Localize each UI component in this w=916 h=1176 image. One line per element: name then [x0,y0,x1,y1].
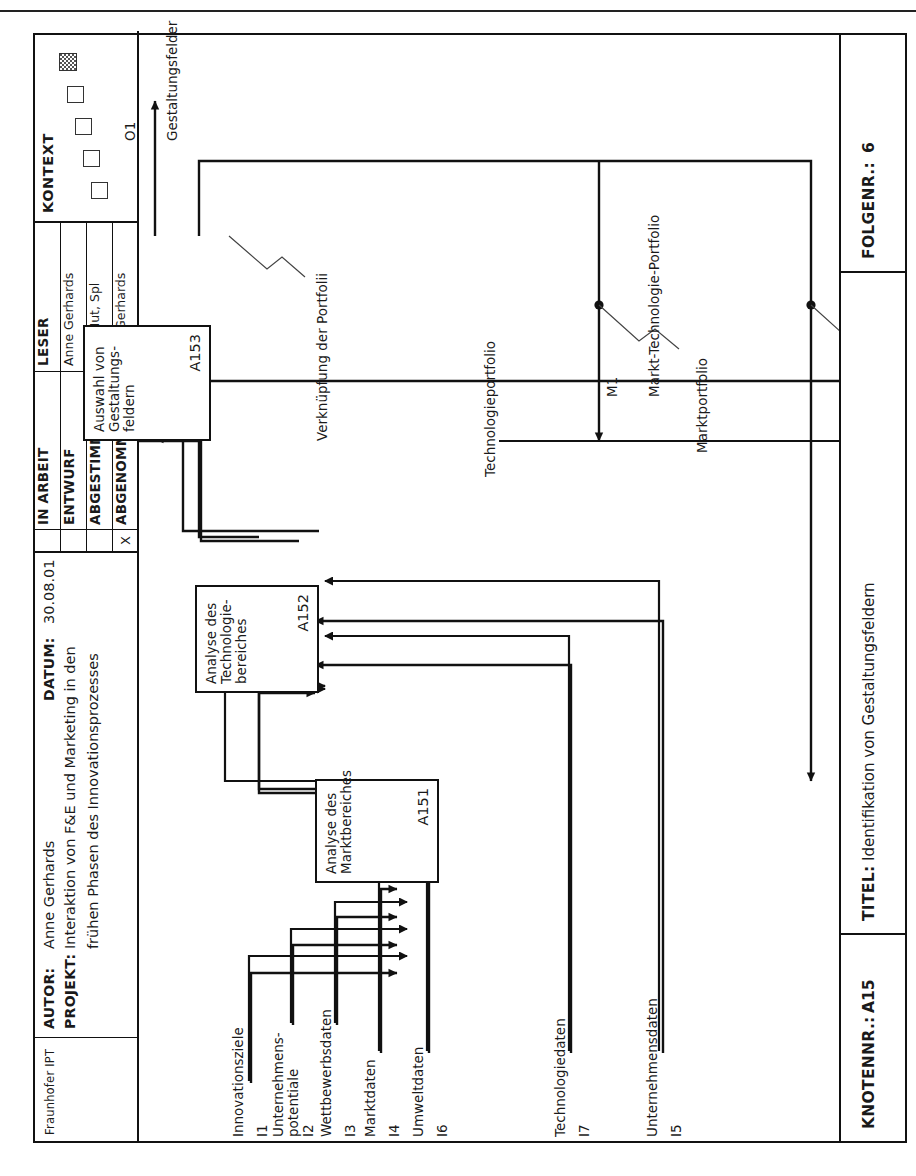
activity-box-a151[interactable]: Analyse des Marktbereiches A151 [315,779,439,883]
project-value-line2: frühen Phasen des Innovationsprozesses [85,653,101,949]
flow-label-marktportfolio: Marktportfolio [695,358,710,453]
wire-junction-dots [594,300,815,309]
project-value-line1: Interaktion von F&E und Marketing in den [62,646,78,949]
status-name-in-arbeit: IN ARBEIT [35,371,60,529]
footer-title-cell: TITEL: Identifikation von Gestaltungsfel… [839,271,905,933]
title-block: Fraunhofer IPT AUTOR: Anne Gerhards PROJ… [35,31,139,1141]
input-label-i5: Unternehmensdaten [645,998,660,1137]
footer-seq-label: FOLGENR.: [860,162,878,259]
author-value: Anne Gerhards [41,841,57,949]
input-code-i2: I2 [301,1124,316,1137]
form-footer: KNOTENNR.: A15 TITEL: Identifikation von… [839,35,905,1141]
status-check-abgestimmt[interactable] [87,529,112,551]
footer-node-label: KNOTENNR.: [860,1016,878,1129]
input-code-i1: I1 [255,1124,270,1137]
footer-title-label: TITEL: [860,866,878,921]
activity-code-a152: A152 [295,594,311,632]
activity-code-a153: A153 [187,334,203,372]
status-row-in-arbeit[interactable]: IN ARBEIT LESER [35,221,61,551]
input-code-i6: I6 [435,1124,450,1137]
input-code-i3: I3 [343,1124,358,1137]
output-label-o1: Gestaltungsfelder [165,21,180,141]
idef0-form: Fraunhofer IPT AUTOR: Anne Gerhards PROJ… [33,33,907,1143]
footer-seq-cell: FOLGENR.: 6 [839,35,905,271]
input-code-i7: I7 [577,1124,592,1137]
logo-cell: Fraunhofer IPT [35,1037,139,1141]
footer-title-value: Identifikation von Gestaltungsfeldern [860,582,878,861]
input-label-i7: Technologiedaten [553,1018,568,1137]
mechanism-label-m1: Markt-Technologie-Portfolio [647,215,662,397]
input-label-i2-line1: Unternehmens- [271,1032,286,1137]
input-label-i4: Marktdaten [363,1059,378,1137]
date-label: DATUM: [41,637,57,701]
input-label-i2-line2: potentiale [286,1069,301,1137]
input-label-i6: Umweltdaten [411,1047,426,1137]
context-square-2 [83,150,100,167]
status-check-in-arbeit[interactable] [35,529,60,551]
idef0-diagram-canvas: Analyse des Marktbereiches A151 Analyse … [139,35,841,1141]
status-check-entwurf[interactable] [61,529,86,551]
page-top-rule [0,10,916,12]
activity-title-a151: Analyse des Marktbereiches [324,770,354,874]
context-square-4 [67,86,84,103]
date-value: 30.08.01 [41,559,57,624]
input-label-i3: Wettbewerbsdaten [319,1009,334,1137]
activity-box-a152[interactable]: Analyse des Technologie- bereiches A152 [195,585,319,693]
context-square-current [59,53,77,71]
output-code-o1: O1 [123,122,138,141]
input-code-i5: I5 [669,1124,684,1137]
status-check-abgenommen[interactable]: X [113,529,139,551]
idef0-form-rotor: Fraunhofer IPT AUTOR: Anne Gerhards PROJ… [33,33,907,1143]
activity-box-a153[interactable]: Auswahl von Gestaltungs- feldern A153 [83,325,211,441]
mechanism-code-m1: M1 [605,377,620,397]
context-square-3 [75,118,92,135]
author-project-cell: AUTOR: Anne Gerhards PROJEKT: Interaktio… [35,551,139,1037]
context-label: KONTEXT [40,133,56,213]
activity-title-a153: Auswahl von Gestaltungs- feldern [92,346,137,432]
input-label-i1: Innovationsziele [231,1027,246,1137]
activity-code-a151: A151 [415,788,431,826]
context-square-1 [91,182,108,199]
footer-node-cell: KNOTENNR.: A15 [839,933,905,1141]
flow-label-verknuepfung: Verknüpfung der Portfolii [315,273,330,441]
input-code-i4: I4 [387,1124,402,1137]
footer-node-value: A15 [860,979,878,1013]
activity-title-a152: Analyse des Technologie- bereiches [204,599,249,684]
project-label: PROJEKT: [62,954,78,1029]
reader-header-label: LESER [35,221,60,371]
flow-label-technologieportfolio: Technologieportfolio [483,341,498,477]
footer-seq-value: 6 [860,142,878,153]
author-label: AUTOR: [41,968,57,1029]
organization-logo-text: Fraunhofer IPT [43,1049,57,1135]
